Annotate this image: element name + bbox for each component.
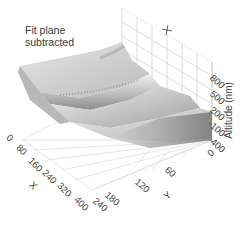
crosshair-marker <box>161 24 173 36</box>
surface-plot: Fit plane subtracted 800 500 200 -100 -4… <box>0 0 249 226</box>
topography-surface <box>18 42 212 148</box>
z-axis-label: Altitude (nm) <box>223 82 234 139</box>
annotation-text: Fit plane subtracted <box>25 24 74 48</box>
